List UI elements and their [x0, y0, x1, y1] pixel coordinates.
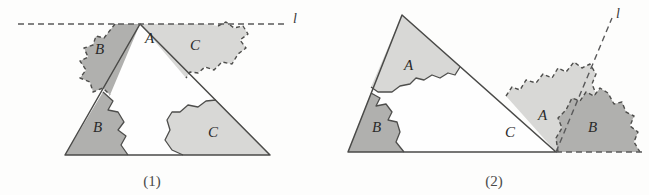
panel-2-group: A B C A B l (2): [348, 6, 646, 190]
panel1-label-B-upper: B: [95, 41, 104, 57]
panel1-label-A: A: [144, 30, 155, 46]
panel1-label-B-lower: B: [93, 119, 102, 135]
panel2-label-B-cloud: B: [588, 119, 597, 135]
panel1-label-C-upper: C: [190, 37, 201, 53]
panel1-line-label-l: l: [293, 11, 297, 26]
panel2-caption: (2): [485, 173, 503, 190]
figure-container: A B C B C l (1): [0, 0, 649, 195]
panel2-label-C: C: [505, 124, 516, 140]
figure-canvas: A B C B C l (1): [0, 0, 649, 195]
panel2-label-A-cloud: A: [537, 107, 548, 123]
panel2-label-A: A: [403, 57, 414, 73]
panel-1-group: A B C B C l (1): [18, 11, 297, 190]
panel2-line-label-l: l: [616, 6, 620, 21]
panel1-caption: (1): [143, 173, 161, 190]
panel2-label-B: B: [372, 119, 381, 135]
panel1-label-C-lower: C: [208, 124, 219, 140]
